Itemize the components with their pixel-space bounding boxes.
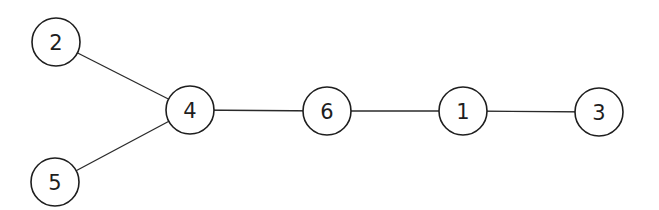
node-label: 5 — [48, 171, 61, 195]
node-2: 2 — [32, 18, 80, 66]
graph-diagram: 254613 — [0, 0, 659, 210]
node-3: 3 — [575, 88, 623, 136]
node-label: 6 — [320, 100, 333, 124]
graph-canvas: 254613 — [0, 0, 659, 210]
node-label: 4 — [183, 99, 196, 123]
node-5: 5 — [31, 158, 79, 206]
node-4: 4 — [166, 86, 214, 134]
node-label: 2 — [49, 31, 62, 55]
node-1: 1 — [439, 87, 487, 135]
node-6: 6 — [303, 87, 351, 135]
node-label: 3 — [592, 101, 605, 125]
node-label: 1 — [456, 100, 469, 124]
